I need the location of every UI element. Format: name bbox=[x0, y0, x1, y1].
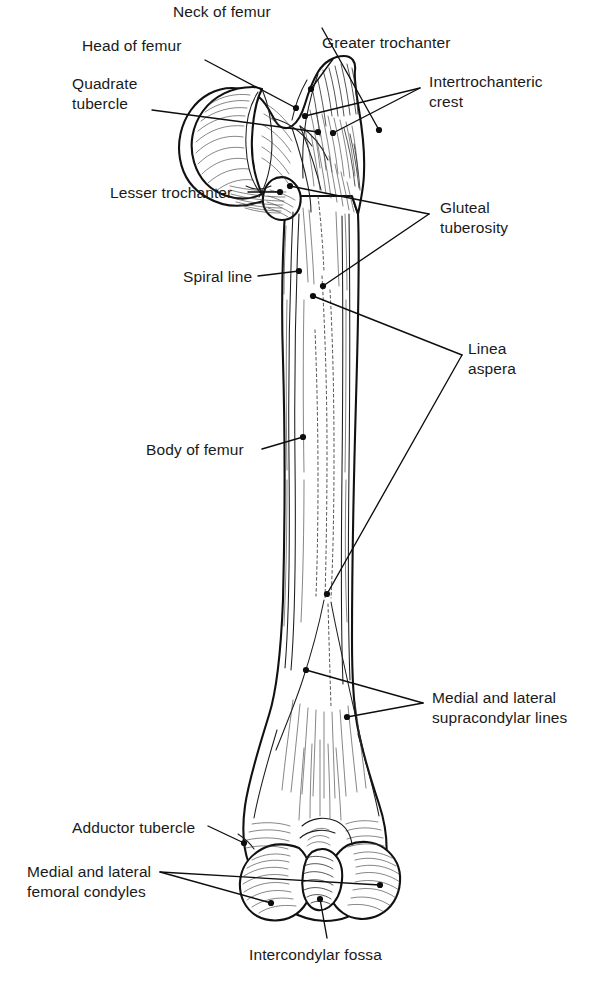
leader-line-medial-lateral-supracondylar-lines bbox=[347, 703, 423, 717]
label-neck-of-femur: Neck of femur bbox=[173, 2, 271, 21]
leader-endpoint-medial-lateral-supracondylar-lines bbox=[303, 667, 309, 673]
leader-endpoint-gluteal-tuberosity bbox=[287, 183, 293, 189]
leader-endpoint-intercondylar-fossa bbox=[317, 896, 323, 902]
leader-endpoint-body-of-femur bbox=[300, 434, 306, 440]
label-head-of-femur: Head of femur bbox=[82, 36, 182, 55]
femur-shaft-and-distal-path bbox=[243, 196, 386, 921]
leader-endpoint-medial-lateral-femoral-condyles bbox=[377, 882, 383, 888]
leader-endpoint-linea-aspera bbox=[310, 293, 316, 299]
label-body-of-femur: Body of femur bbox=[146, 440, 244, 459]
leader-endpoint-lesser-trochanter bbox=[277, 189, 283, 195]
leader-endpoint-quadrate-tubercle bbox=[315, 129, 321, 135]
leader-endpoint-gluteal-tuberosity bbox=[320, 283, 326, 289]
label-greater-trochanter: Greater trochanter bbox=[322, 33, 450, 52]
label-quadrate-tubercle: Quadrate tubercle bbox=[72, 74, 137, 113]
leader-endpoint-intertrochanteric-crest bbox=[302, 113, 308, 119]
leader-endpoint-adductor-tubercle bbox=[241, 840, 247, 846]
leader-endpoint-neck-of-femur bbox=[376, 127, 382, 133]
leader-endpoint-medial-lateral-femoral-condyles bbox=[268, 900, 274, 906]
leader-endpoint-spiral-line bbox=[296, 268, 302, 274]
label-intertrochanteric-crest: Intertrochanteric crest bbox=[429, 72, 543, 111]
leader-endpoint-medial-lateral-supracondylar-lines bbox=[344, 714, 350, 720]
label-spiral-line: Spiral line bbox=[183, 267, 252, 286]
leader-endpoint-intertrochanteric-crest bbox=[330, 130, 336, 136]
label-lesser-trochanter: Lesser trochanter bbox=[110, 183, 232, 202]
femur-anatomy-figure: Neck of femurHead of femurQuadrate tuber… bbox=[0, 0, 599, 988]
label-medial-lateral-supracondylar-lines: Medial and lateral supracondylar lines bbox=[432, 688, 567, 727]
label-adductor-tubercle: Adductor tubercle bbox=[72, 818, 195, 837]
leader-endpoint-head-of-femur bbox=[293, 105, 299, 111]
label-medial-lateral-femoral-condyles: Medial and lateral femoral condyles bbox=[27, 862, 151, 901]
femur-illustration bbox=[0, 0, 599, 988]
label-linea-aspera: Linea aspera bbox=[468, 339, 516, 378]
leader-endpoint-greater-trochanter bbox=[308, 86, 314, 92]
leader-endpoint-linea-aspera bbox=[324, 591, 330, 597]
label-intercondylar-fossa: Intercondylar fossa bbox=[249, 945, 382, 964]
label-gluteal-tuberosity: Gluteal tuberosity bbox=[440, 198, 508, 237]
